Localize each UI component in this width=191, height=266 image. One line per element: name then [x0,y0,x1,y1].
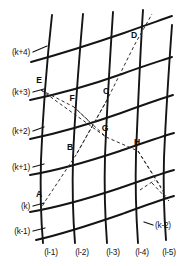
node-label-A: A [36,189,42,199]
axis-label-left-4: (k) [21,201,30,211]
axis-label-left-2: (k+2) [12,126,30,136]
node-label-D: D [131,30,137,40]
figure-container: (k+4)(k+3)(k+2)(k+1)(k)(k-1)(k-2)(l-1)(l… [0,0,191,266]
node-label-G: G [102,123,109,133]
axis-label-bottom-3: (l-4) [135,247,149,257]
axis-label-bottom-0: (l-1) [44,247,58,257]
axis-label-bottom-1: (l-2) [75,247,89,257]
axis-label-left-3: (k+1) [12,162,30,172]
axis-label-bottom-2: (l-3) [106,247,120,257]
axis-label-bottom-4: (l-5) [162,247,176,257]
axis-label-left-5: (k-1) [14,226,30,236]
grid-diagram-svg: (k+4)(k+3)(k+2)(k+1)(k)(k-1)(k-2)(l-1)(l… [0,0,191,266]
grid-line-horizontal-4 [30,133,174,175]
axis-label-right-leader-0 [144,222,153,225]
node-label-F: F [69,93,74,103]
axis-label-left-leader-3 [33,164,44,167]
axis-label-left-1: (k+3) [12,87,30,97]
node-label-C: C [103,86,109,96]
node-label-H: H [134,137,140,147]
axis-label-left-leader-0 [33,46,47,52]
axis-label-left-0: (k+4) [12,47,30,57]
grid-line-horizontal-1 [31,16,172,62]
axis-label-left-leader-5 [33,228,45,231]
node-label-E: E [36,75,42,85]
axis-label-right-0: (k-2) [155,220,171,230]
grid-line-horizontal-5 [30,170,174,212]
dashed-tail-lower-left [140,180,155,190]
node-label-B: B [67,142,73,152]
grid-line-horizontal-2 [30,57,172,100]
